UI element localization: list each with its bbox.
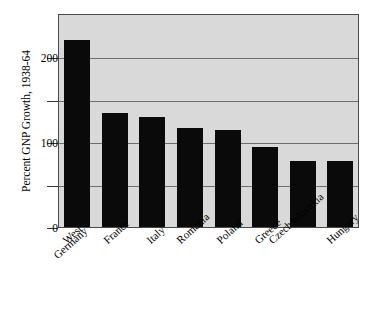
x-label-france: France xyxy=(101,217,132,246)
x-label-hungary: Hungary xyxy=(324,211,361,246)
x-label-italy: Italy xyxy=(144,224,167,247)
chart-figure: Percent GNP Growth, 1938-64 0 100 200 xyxy=(0,0,370,312)
x-label-poland: Poland xyxy=(214,217,245,247)
x-axis-labels: West Germany France Italy Romania Poland… xyxy=(0,0,370,312)
x-label-romania: Romania xyxy=(174,210,212,246)
